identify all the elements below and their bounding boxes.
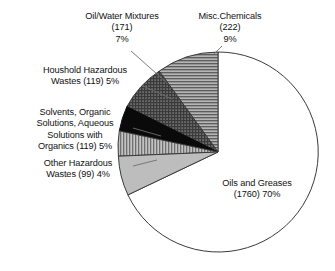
- pie-chart-figure: Oil/Water Mixtures (171) 7% Misc.Chemica…: [0, 0, 335, 271]
- slice-label-oils-and-greases: Oils and Greases (1760) 70%: [205, 178, 309, 201]
- slice-label-misc-chemicals: Misc.Chemicals (222) 9%: [182, 11, 278, 45]
- slice-label-solvents-organic-solutions: Solvents, Organic Solutions, Aqueous Sol…: [16, 107, 134, 153]
- slice-label-oil-water-mixtures: Oil/Water Mixtures (171) 7%: [66, 11, 178, 45]
- slice-label-household-hazardous-wastes: Houshold Hazardous Wastes (119) 5%: [22, 65, 148, 88]
- slice-label-other-hazardous-wastes: Other Hazardous Wastes (99) 4%: [22, 158, 134, 181]
